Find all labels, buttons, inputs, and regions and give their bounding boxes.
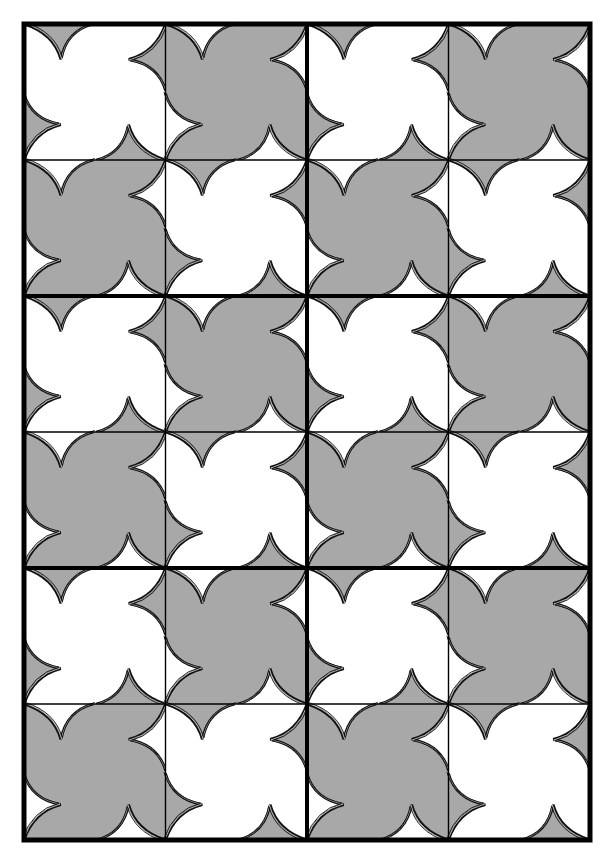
tile-grey bbox=[447, 567, 592, 706]
tile-background bbox=[449, 704, 591, 840]
tile-white bbox=[447, 703, 592, 842]
tile-background bbox=[24, 568, 166, 704]
tile-grey bbox=[305, 703, 450, 842]
tile-background bbox=[166, 296, 308, 432]
tile-white bbox=[22, 567, 167, 706]
tile-grey bbox=[164, 295, 309, 434]
tile-white bbox=[447, 159, 592, 298]
tile-grey bbox=[447, 295, 592, 434]
tile-background bbox=[166, 24, 308, 160]
tile-white bbox=[447, 431, 592, 570]
tile-background bbox=[166, 432, 308, 568]
tile-background bbox=[24, 160, 166, 296]
tile-background bbox=[24, 704, 166, 840]
tile-background bbox=[307, 160, 449, 296]
tile-background bbox=[307, 296, 449, 432]
tile-background bbox=[449, 24, 591, 160]
tile-grey bbox=[22, 431, 167, 570]
tile-background bbox=[166, 160, 308, 296]
tile-background bbox=[166, 568, 308, 704]
tile-grey bbox=[22, 703, 167, 842]
tile-white bbox=[164, 159, 309, 298]
tile-white bbox=[22, 23, 167, 162]
tile-background bbox=[24, 432, 166, 568]
tile-grey bbox=[164, 23, 309, 162]
tessellation-figure bbox=[0, 0, 612, 860]
tile-white bbox=[164, 431, 309, 570]
tile-background bbox=[307, 24, 449, 160]
tile-background bbox=[166, 704, 308, 840]
tile-grey bbox=[22, 159, 167, 298]
tile-background bbox=[24, 296, 166, 432]
tile-background bbox=[24, 24, 166, 160]
tile-white bbox=[305, 295, 450, 434]
tile-background bbox=[449, 296, 591, 432]
tile-grey bbox=[447, 23, 592, 162]
tile-background bbox=[307, 432, 449, 568]
tile-background bbox=[449, 568, 591, 704]
tile-background bbox=[307, 568, 449, 704]
tile-grey bbox=[164, 567, 309, 706]
tile-background bbox=[449, 160, 591, 296]
tile-white bbox=[164, 703, 309, 842]
tile-grey bbox=[305, 159, 450, 298]
tile-grey bbox=[305, 431, 450, 570]
tile-background bbox=[307, 704, 449, 840]
tile-white bbox=[305, 23, 450, 162]
tile-background bbox=[449, 432, 591, 568]
tile-white bbox=[305, 567, 450, 706]
tile-white bbox=[22, 295, 167, 434]
